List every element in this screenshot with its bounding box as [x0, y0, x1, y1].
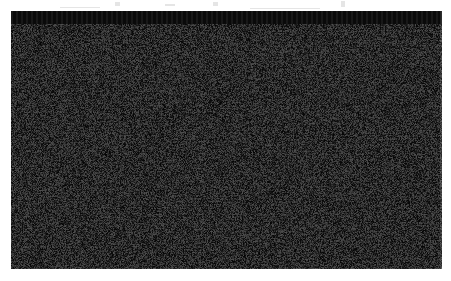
northern-dark-band	[11, 11, 442, 24]
scan-speck-icon	[165, 4, 175, 6]
scan-edge-bottom	[11, 268, 442, 269]
scan-line-icon	[250, 8, 320, 9]
scan-speck-icon	[213, 2, 218, 6]
scan-speck-icon	[115, 2, 120, 6]
map-raster-canvas	[11, 11, 442, 269]
scan-line-icon	[60, 7, 100, 8]
nighttime-lights-map	[11, 11, 442, 269]
scan-edge-right	[440, 11, 442, 269]
scan-artifacts	[0, 0, 451, 11]
page-root	[0, 0, 451, 281]
scan-speck-icon	[341, 1, 345, 7]
